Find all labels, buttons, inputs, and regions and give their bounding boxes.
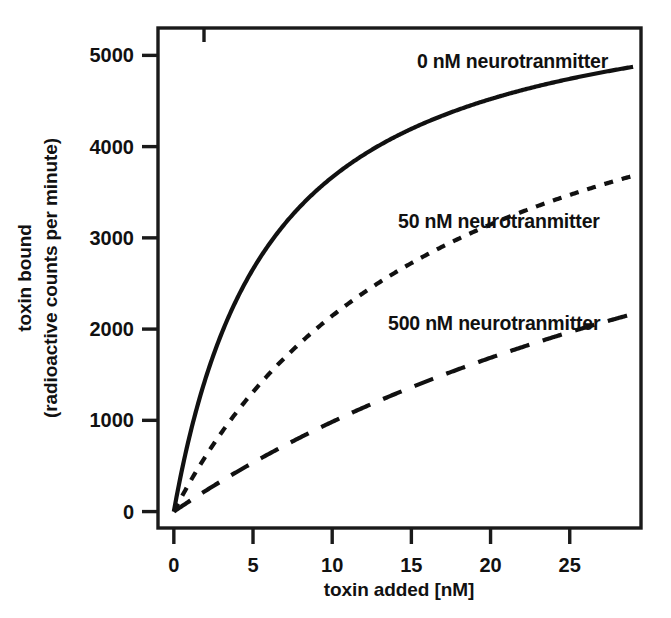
x-tick-label-0: 0 — [168, 554, 179, 576]
y-axis-title-line2: (radioactive counts per minute) — [40, 138, 61, 418]
series-annotation-1: 50 nM neurotranmitter — [398, 210, 600, 232]
x-axis-title-text: toxin added [nM] — [324, 579, 474, 600]
x-tick-label-15: 15 — [400, 554, 422, 576]
series-annotation-0: 0 nM neurotranmitter — [417, 50, 609, 72]
y-tick-label-3000: 3000 — [90, 227, 135, 249]
series-annotation-2: 500 nM neurotranmitter — [388, 312, 601, 334]
chart-background — [0, 0, 671, 618]
x-tick-label-5: 5 — [247, 554, 258, 576]
toxin-binding-chart: 010002000300040005000 0510152025 0 nM ne… — [0, 0, 671, 618]
x-tick-label-10: 10 — [321, 554, 343, 576]
x-tick-label-25: 25 — [559, 554, 581, 576]
y-tick-label-2000: 2000 — [90, 318, 135, 340]
y-axis-title-line1: toxin bound — [14, 224, 35, 332]
x-tick-label-20: 20 — [479, 554, 501, 576]
y-tick-label-5000: 5000 — [90, 44, 135, 66]
chart-figure: 010002000300040005000 0510152025 0 nM ne… — [0, 0, 671, 618]
y-tick-label-1000: 1000 — [90, 409, 135, 431]
y-tick-label-0: 0 — [123, 501, 134, 523]
y-tick-label-4000: 4000 — [90, 136, 135, 158]
x-axis-title: toxin added [nM] — [324, 579, 474, 600]
